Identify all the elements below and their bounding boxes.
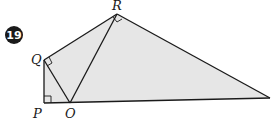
problem-number: 19 <box>6 29 21 42</box>
label-O: O <box>65 106 76 121</box>
shaded-region <box>44 14 270 103</box>
label-Q: Q <box>31 52 42 67</box>
geometry-figure: 19 R Q P O <box>0 0 271 123</box>
label-R: R <box>111 0 122 13</box>
label-P: P <box>32 106 42 121</box>
problem-number-badge: 19 <box>5 26 23 44</box>
